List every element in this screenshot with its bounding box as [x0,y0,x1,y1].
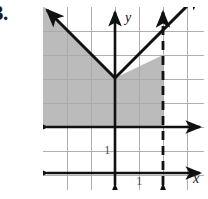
y-axis-label: y [125,11,131,25]
absolute-value-v-graph [47,7,200,78]
problem-number-label: 3. [0,3,8,24]
plot-area [43,7,204,190]
graph-lines-overlay [43,7,204,190]
x-axis-label: x [193,172,199,186]
graph-figure: 3. [0,0,208,199]
x-axis-tick-label-1: 1 [136,174,143,187]
y-axis-tick-label-1: 1 [104,143,111,156]
